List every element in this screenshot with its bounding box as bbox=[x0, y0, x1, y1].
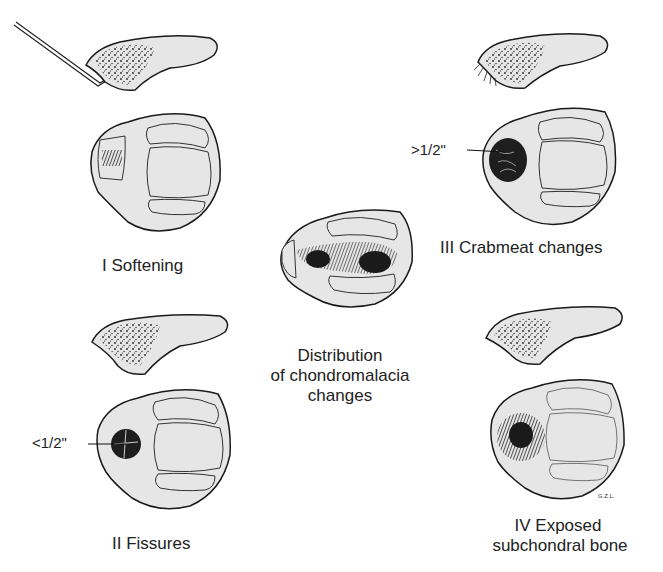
panel-iii-measurement: >1/2" bbox=[411, 141, 446, 158]
panel-ii-patella bbox=[88, 390, 230, 509]
panel-iv-cartilage-section bbox=[486, 307, 622, 364]
panel-ii-cartilage-section bbox=[92, 315, 228, 375]
center-distribution-patella bbox=[281, 210, 412, 307]
center-label-line1: Distribution bbox=[270, 346, 410, 366]
panel-i-label: I Softening bbox=[102, 256, 183, 276]
panel-i-patella bbox=[91, 114, 220, 231]
panel-iii-patella bbox=[467, 108, 616, 224]
center-label-line2: of chondromalacia bbox=[250, 366, 430, 386]
diagram-artwork: G.Z.L. bbox=[0, 0, 663, 572]
panel-iv-label-line2: subchondral bone bbox=[470, 536, 650, 556]
panel-i-cartilage-section bbox=[86, 36, 217, 91]
panel-ii-measurement: <1/2" bbox=[32, 434, 67, 451]
panel-iii-cartilage-section bbox=[474, 34, 608, 89]
artist-signature: G.Z.L. bbox=[598, 493, 615, 499]
panel-ii-label: II Fissures bbox=[112, 534, 190, 554]
center-label-line3: changes bbox=[270, 386, 410, 406]
panel-iii-label: III Crabmeat changes bbox=[440, 238, 603, 258]
panel-iv-label-line1: IV Exposed bbox=[478, 516, 638, 536]
panel-iv-patella: G.Z.L. bbox=[491, 380, 624, 499]
